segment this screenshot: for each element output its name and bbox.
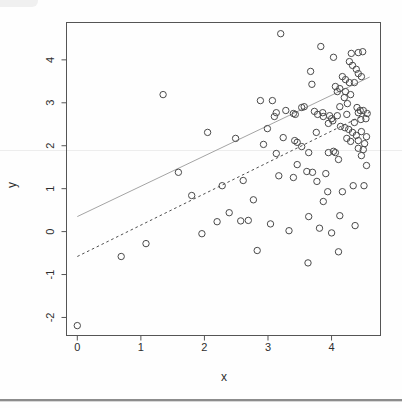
y-tick-label: -1 [44, 270, 56, 280]
data-point [269, 97, 275, 103]
data-point [335, 249, 341, 255]
data-point [299, 143, 305, 149]
x-tick-label: 3 [265, 341, 271, 353]
y-tick-label: 1 [44, 186, 56, 192]
data-point [290, 174, 296, 180]
data-point [240, 177, 246, 183]
data-point [226, 210, 232, 216]
data-point [219, 183, 225, 189]
data-point [355, 49, 361, 55]
y-axis-label: y [5, 182, 19, 188]
data-point [214, 219, 220, 225]
x-tick-label: 2 [201, 341, 207, 353]
data-point [306, 149, 312, 155]
data-point [257, 97, 263, 103]
data-point [264, 125, 270, 131]
data-point [160, 91, 166, 97]
data-point [363, 134, 369, 140]
data-point [314, 178, 320, 184]
data-point [342, 125, 348, 131]
data-point [316, 225, 322, 231]
data-point [313, 129, 319, 135]
data-point [294, 161, 300, 167]
y-tick-label: 4 [44, 57, 56, 63]
x-tick-label: 4 [328, 341, 334, 353]
data-point [337, 104, 343, 110]
data-point [330, 54, 336, 60]
data-point [286, 228, 292, 234]
data-point [118, 253, 124, 259]
data-point [175, 169, 181, 175]
data-point [260, 141, 266, 147]
data-point [335, 156, 341, 162]
data-point [339, 189, 345, 195]
data-point [199, 231, 205, 237]
footer-divider [0, 399, 402, 401]
data-point [360, 49, 366, 55]
data-point [352, 222, 358, 228]
data-point [309, 81, 315, 87]
data-point [238, 218, 244, 224]
data-point [283, 107, 289, 113]
y-tick-label: 0 [44, 229, 56, 235]
data-point [328, 230, 334, 236]
data-point [347, 91, 353, 97]
data-point [307, 68, 313, 74]
data-point [341, 94, 347, 100]
plot-frame [67, 23, 381, 336]
data-point [358, 152, 364, 158]
data-point [306, 213, 312, 219]
data-point [276, 173, 282, 179]
data-point [344, 100, 350, 106]
data-point [143, 240, 149, 246]
data-point [361, 140, 367, 146]
data-point [280, 134, 286, 140]
data-point [320, 198, 326, 204]
data-point [332, 149, 338, 155]
data-point [323, 170, 329, 176]
data-point [254, 247, 260, 253]
dashed-line [77, 112, 369, 256]
data-point [250, 197, 256, 203]
data-point [189, 192, 195, 198]
plot-area: 01234-2-101234 [44, 23, 381, 354]
data-point [334, 113, 340, 119]
data-point [271, 113, 277, 119]
data-point [318, 43, 324, 49]
data-point [204, 129, 210, 135]
data-point [350, 183, 356, 189]
data-point [325, 189, 331, 195]
scatter-plot: 01234-2-101234 x y [0, 0, 402, 408]
data-point [278, 31, 284, 37]
data-point [344, 111, 350, 117]
data-point [358, 128, 364, 134]
data-point [348, 50, 354, 56]
data-point [245, 217, 251, 223]
data-point [273, 110, 279, 116]
data-point [320, 113, 326, 119]
data-point [337, 213, 343, 219]
data-point [273, 150, 279, 156]
x-tick-label: 1 [138, 341, 144, 353]
data-point [74, 322, 80, 328]
data-point [305, 260, 311, 266]
figure-page: 01234-2-101234 x y [0, 0, 402, 408]
data-point [267, 221, 273, 227]
x-tick-label: 0 [74, 341, 80, 353]
y-tick-label: -2 [44, 313, 56, 323]
solid-line [77, 77, 369, 217]
y-tick-label: 2 [44, 143, 56, 149]
x-axis-label: x [221, 370, 227, 384]
y-tick-label: 3 [44, 100, 56, 106]
data-point [363, 162, 369, 168]
data-point [361, 183, 367, 189]
